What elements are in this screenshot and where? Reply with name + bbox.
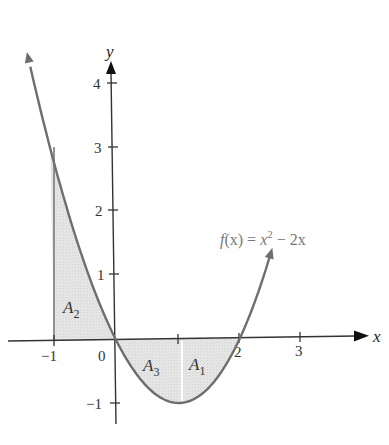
x-axis-label: x [372,327,381,346]
y-tick-label-2: 2 [95,203,103,219]
curve-arrow-right-icon [265,248,274,260]
y-tick-label-1: 1 [97,267,105,283]
x-tick-label-neg1: −1 [41,348,57,364]
y-tick-label-neg1: −1 [86,396,102,412]
y-tick-label-4: 4 [93,76,101,92]
function-label: f(x) = x2 − 2x [220,228,306,249]
y-axis: y 4 3 2 1 −1 [86,42,120,424]
x-axis-arrow-icon [354,331,369,342]
function-plot: x −1 0 2 3 y 4 3 2 1 −1 A2 A3 A [0,0,389,445]
y-tick-label-3: 3 [94,140,102,156]
x-tick-label-0: 0 [98,348,106,364]
region-a1 [178,338,240,403]
curve-arrow-left-icon [25,52,34,64]
region-a2 [50,149,116,341]
y-axis-label: y [104,42,114,61]
x-tick-label-3: 3 [295,343,303,359]
y-axis-arrow-icon [106,61,116,74]
